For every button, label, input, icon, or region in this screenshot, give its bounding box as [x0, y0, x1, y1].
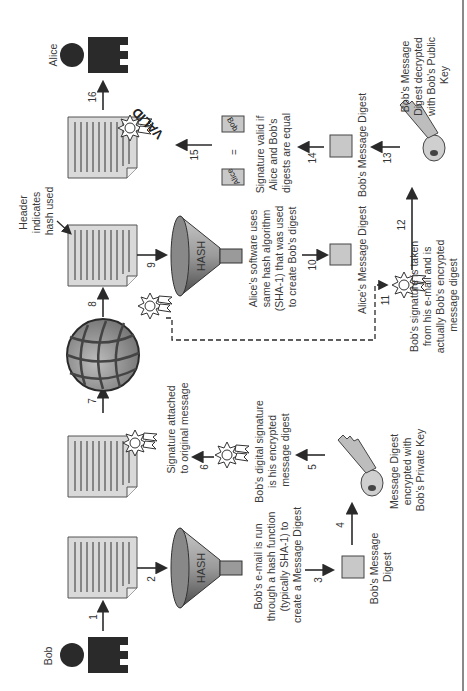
compare-digests: Alice = Bob	[222, 116, 244, 187]
equals-sign: =	[229, 149, 240, 155]
caption-signature-taken: Bob's signature is taken from his e-mail…	[408, 237, 459, 353]
hash-label-bob: HASH	[195, 553, 207, 584]
caption-signature-valid: Signature valid if Alice and Bob's diges…	[254, 113, 292, 194]
step-7: 7	[87, 398, 98, 404]
hash-label-alice: HASH	[195, 241, 207, 272]
step-3: 3	[313, 577, 324, 583]
step-11: 11	[380, 294, 391, 305]
signature-seal-icon	[215, 442, 249, 468]
caption-digital-signature: Bob's digital signature is his encrypted…	[253, 397, 291, 502]
bob-label: Bob	[42, 647, 54, 666]
step-9: 9	[146, 262, 157, 268]
caption-bob-digest: Bob's Message Digest	[368, 530, 393, 604]
step-14: 14	[307, 152, 318, 164]
step-6: 6	[199, 464, 210, 470]
step-8: 8	[87, 301, 98, 307]
caption-public-key: Bob's Message Digest decrypted with Bob'…	[399, 34, 450, 117]
caption-alice-digest: Alice's Message Digest	[356, 206, 368, 314]
private-key-icon	[338, 435, 383, 496]
step-15: 15	[189, 149, 200, 161]
step-16: 16	[87, 91, 98, 103]
step-13: 13	[382, 152, 393, 164]
internet-globe-icon	[67, 319, 139, 391]
caption-header: Header indicates hash used	[17, 187, 55, 236]
email-document-icon	[68, 537, 137, 598]
alice-person-icon	[60, 37, 128, 73]
bob-decrypted-digest-box	[330, 135, 352, 157]
extracted-seal-icon	[138, 293, 172, 319]
bob-person-icon	[60, 637, 128, 673]
caption-private-key: Message Digest encrypted with Bob's Priv…	[388, 428, 426, 511]
alice-label: Alice	[47, 43, 59, 66]
step-12: 12	[396, 219, 407, 231]
diagram-stage: Bob 1 2 HASH Bob's e-mail is run through…	[0, 0, 467, 691]
received-document-icon	[68, 225, 137, 286]
caption-hash-bob: Bob's e-mail is run through a hash funct…	[252, 507, 303, 623]
step-4: 4	[335, 522, 346, 528]
bob-digest-box	[342, 556, 364, 578]
step-5: 5	[307, 464, 318, 470]
step-1: 1	[88, 614, 99, 620]
caption-signature-attached: Signature attached to original message	[165, 382, 190, 473]
step-2: 2	[146, 576, 157, 582]
caption-alice-software: Alice's software uses same hash algorith…	[247, 203, 298, 312]
caption-bob-digest-right: Bob's Message Digest	[356, 93, 368, 197]
step-10: 10	[307, 259, 318, 271]
alice-digest-box	[330, 244, 351, 265]
